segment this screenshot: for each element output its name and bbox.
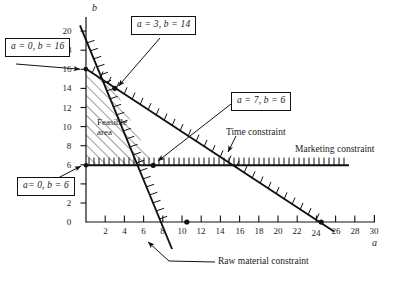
feasible-area-label: Feasible area [97,117,127,137]
ytick-label-8: 8 [62,141,76,151]
linear-programming-figure: 0 2 4 6 8 10 12 14 16 18 20 2 4 6 8 10 1… [0,0,398,288]
ytick-label-20: 20 [58,26,76,36]
xtick-label-10: 10 [174,226,190,236]
xtick-label-4: 4 [117,226,132,236]
ytick-label-6: 6 [62,160,76,170]
ytick-label-12: 12 [58,103,76,113]
ytick-label-10: 10 [58,122,76,132]
callout-a0-b6: a= 0, b = 6 [17,177,75,196]
y-axis-label: b [92,2,97,13]
xtick-label-2: 2 [98,226,113,236]
ytick-label-0: 0 [62,217,76,227]
callout-a0-b16: a = 0, b = 16 [5,38,70,57]
xtick-label-26: 26 [328,226,344,236]
xtick-label-28: 28 [347,226,363,236]
feasible-area-label-line2: area [97,127,112,137]
leader-time [228,136,236,152]
callout-a3-b14: a = 3, b = 14 [131,16,196,35]
vertex-3-14 [112,86,117,91]
xtick-label-6: 6 [136,226,151,236]
marketing-constraint-label: Marketing constraint [295,144,374,154]
xtick-label-18: 18 [251,226,267,236]
vertex-x-intercept-time [319,219,324,224]
xtick-label-20: 20 [270,226,286,236]
xtick-label-22: 22 [289,226,305,236]
ytick-label-14: 14 [58,83,76,93]
xtick-label-30: 30 [366,226,382,236]
ytick-label-2: 2 [62,198,76,208]
raw-material-constraint-label: Raw material constraint [218,256,309,266]
xtick-label-14: 14 [212,226,228,236]
vertex-x-intercept-raw [184,219,189,224]
x-axis-label: a [372,237,377,248]
xtick-label-12: 12 [193,226,209,236]
xtick-label-24: 24 [308,228,324,238]
feasible-area-label-line1: Feasible [97,117,127,127]
ytick-label-16: 16 [58,64,76,74]
vertex-0-16 [84,67,89,72]
vertex-0-6 [84,163,89,168]
leader-raw-material [148,242,215,262]
callout-a7-b6: a = 7, b = 6 [231,92,291,111]
vertex-7-6 [151,163,156,168]
xtick-label-8: 8 [155,226,170,236]
leader-a3b14 [119,38,161,86]
xtick-label-16: 16 [232,226,248,236]
time-constraint-label: Time constraint [226,127,286,137]
leader-a7b6 [158,104,231,161]
